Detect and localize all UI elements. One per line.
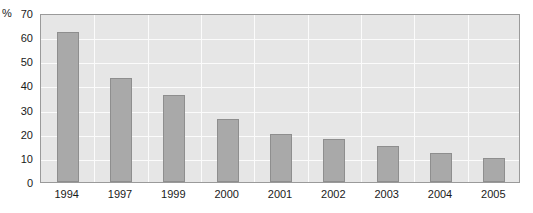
gridline-vertical [94,15,95,182]
y-axis-tick-label: 40 [21,81,33,92]
y-axis-tick-label: 30 [21,105,33,116]
bar [57,32,79,182]
gridline-vertical [254,15,255,182]
bar [217,119,239,182]
x-axis-tick-labels: 199419971999200020012002200320042005 [40,188,520,208]
gridline-vertical [148,15,149,182]
y-axis-tick-label: 10 [21,153,33,164]
y-axis-tick-label: 60 [21,33,33,44]
y-axis-tick-label: 0 [27,178,33,189]
x-axis-tick-label: 2002 [321,188,345,201]
gridline-vertical [414,15,415,182]
gridline-vertical [201,15,202,182]
y-axis-tick-labels: 010203040506070 [0,0,36,213]
bar-chart: % 010203040506070 1994199719992000200120… [0,0,533,213]
bar [483,158,505,182]
plot-area [40,14,520,183]
bar [270,134,292,182]
bar [323,139,345,182]
x-axis-tick-label: 1997 [108,188,132,201]
bar [377,146,399,182]
gridline-horizontal [41,39,519,40]
bar [163,95,185,182]
y-axis-tick-label: 20 [21,129,33,140]
bar [110,78,132,182]
x-axis-tick-label: 1999 [161,188,185,201]
bar [430,153,452,182]
x-axis-tick-label: 2004 [428,188,452,201]
x-axis-tick-label: 2003 [374,188,398,201]
x-axis-tick-label: 2000 [214,188,238,201]
gridline-vertical [361,15,362,182]
y-axis-tick-label: 50 [21,57,33,68]
x-axis-tick-label: 1994 [54,188,78,201]
gridline-horizontal [41,63,519,64]
x-axis-tick-label: 2001 [268,188,292,201]
gridline-vertical [468,15,469,182]
gridline-vertical [308,15,309,182]
x-axis-tick-label: 2005 [481,188,505,201]
y-axis-tick-label: 70 [21,9,33,20]
